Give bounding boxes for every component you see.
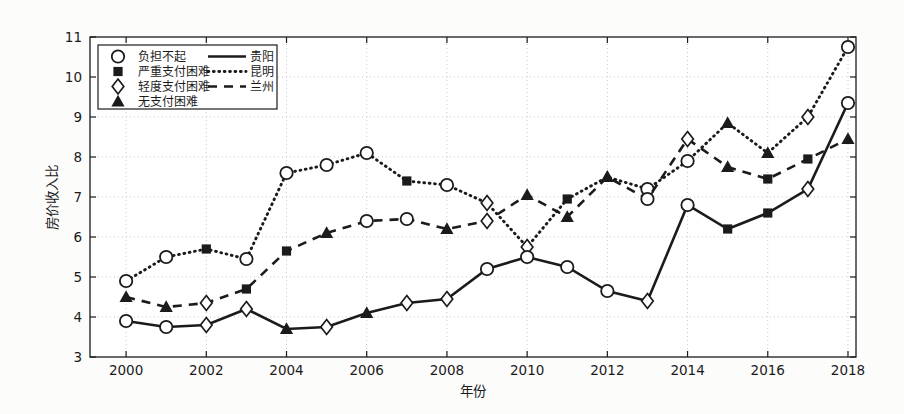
series-dotted-marker-circle [160, 251, 172, 263]
series-dotted-marker-circle [361, 147, 373, 159]
figure-canvas: 2000200220042006200820102012201420162018… [0, 0, 904, 414]
series-dotted-marker-square [563, 194, 572, 203]
series-dotted-marker-circle [120, 275, 132, 287]
series-dashed-marker-square [242, 284, 251, 293]
series-dotted-marker-circle [240, 253, 252, 265]
series-dashed-marker-circle [361, 215, 373, 227]
series-dotted-marker-square [402, 176, 411, 185]
line-chart: 2000200220042006200820102012201420162018… [0, 0, 904, 414]
series-solid-marker-circle [601, 285, 613, 297]
y-tick-label: 4 [73, 309, 82, 325]
x-tick-label: 2004 [269, 362, 303, 378]
series-dashed-marker-square [763, 174, 772, 183]
legend-marker-label: 负担不起 [138, 50, 186, 64]
legend-line-label: 贵阳 [250, 50, 274, 64]
legend-marker-label: 严重支付困难 [138, 65, 210, 79]
y-tick-label: 7 [73, 189, 82, 205]
legend-marker-square [113, 67, 122, 76]
series-solid-marker-square [763, 208, 772, 217]
series-dotted-marker-circle [842, 41, 854, 53]
legend-marker-circle [112, 50, 124, 62]
y-tick-label: 5 [73, 269, 82, 285]
y-tick-label: 10 [65, 69, 82, 85]
y-tick-label: 6 [73, 229, 82, 245]
series-dotted-marker-circle [320, 159, 332, 171]
series-solid-marker-circle [160, 321, 172, 333]
series-solid-marker-circle [120, 315, 132, 327]
y-tick-label: 11 [65, 29, 82, 45]
y-tick-label: 3 [73, 349, 82, 365]
x-tick-label: 2006 [350, 362, 384, 378]
legend-line-label: 昆明 [250, 65, 274, 79]
series-solid-marker-circle [681, 199, 693, 211]
x-tick-label: 2002 [189, 362, 223, 378]
x-tick-label: 2016 [751, 362, 785, 378]
x-tick-label: 2008 [430, 362, 464, 378]
series-dotted-marker-circle [441, 179, 453, 191]
x-tick-label: 2012 [590, 362, 624, 378]
series-solid-marker-circle [561, 261, 573, 273]
series-dashed-marker-circle [641, 193, 653, 205]
series-solid-marker-circle [842, 97, 854, 109]
x-tick-label: 2014 [670, 362, 704, 378]
x-tick-label: 2010 [510, 362, 544, 378]
series-dotted-marker-circle [681, 155, 693, 167]
y-tick-label: 9 [73, 109, 82, 125]
legend-line-label: 兰州 [250, 80, 274, 94]
y-tick-label: 8 [73, 149, 82, 165]
legend-marker-label: 无支付困难 [138, 95, 198, 109]
series-solid-marker-circle [521, 251, 533, 263]
x-tick-label: 2000 [109, 362, 143, 378]
x-tick-label: 2018 [831, 362, 865, 378]
series-dashed-marker-square [803, 154, 812, 163]
series-solid-marker-circle [481, 263, 493, 275]
series-dashed-marker-circle [401, 213, 413, 225]
series-dotted-marker-square [202, 244, 211, 253]
series-solid-marker-square [723, 224, 732, 233]
y-axis-label: 房价收入比 [44, 165, 60, 230]
series-dashed-marker-square [282, 246, 291, 255]
x-axis-label: 年份 [460, 383, 487, 399]
series-dotted-marker-circle [280, 167, 292, 179]
legend-marker-label: 轻度支付困难 [138, 79, 210, 94]
